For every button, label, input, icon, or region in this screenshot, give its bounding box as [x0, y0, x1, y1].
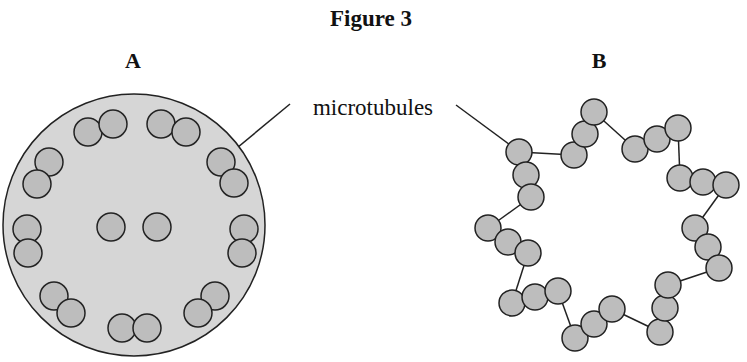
- figure-canvas: Figure 3 A B microtubules: [0, 0, 747, 362]
- panel-label-a: A: [125, 48, 141, 73]
- panel-a-diagram: [3, 94, 265, 356]
- leader-line-b: [456, 105, 517, 150]
- cell-outline: [3, 94, 265, 356]
- panel-b-diagram: [475, 99, 739, 351]
- panel-label-b: B: [592, 48, 607, 73]
- figure-title: Figure 3: [330, 6, 412, 31]
- microtubules-label: microtubules: [313, 95, 433, 120]
- triplets: [475, 99, 739, 351]
